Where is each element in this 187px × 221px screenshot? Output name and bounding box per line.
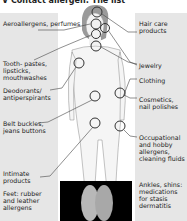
- label-hair-care: Hair care products: [139, 20, 185, 34]
- label-cosmetics: Cosmetics, nail polishes: [139, 96, 185, 110]
- label-feet: Feet: rubber and leather allergens: [3, 190, 53, 211]
- label-ankles-shins: Ankles, shins: medications for stasis de…: [139, 181, 187, 209]
- label-toothpastes: Tooth- pastes, lipsticks, mouthwashes: [3, 60, 51, 81]
- label-intimate-products: Intimate products: [3, 170, 43, 184]
- feet-photo: [60, 181, 132, 221]
- label-aeroallergens: Aeroallergens, perfumes: [3, 20, 80, 27]
- label-deodorants: Deodorants/ antiperspirants: [3, 87, 55, 101]
- label-clothing: Clothing: [139, 77, 165, 84]
- label-occupational: Occupational and hobby allergens, cleani…: [139, 134, 187, 162]
- label-jewelry: Jewelry: [139, 62, 162, 69]
- label-belt-buckles: Belt buckles, jeans buttons: [3, 120, 49, 134]
